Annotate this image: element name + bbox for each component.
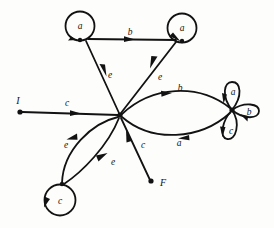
- petal-label-bottom: c: [229, 126, 234, 136]
- loop-petal-right: [232, 104, 259, 117]
- label-initial: I: [15, 95, 20, 106]
- node-top-right[interactable]: [180, 39, 184, 43]
- edge-path-topright: [121, 42, 176, 113]
- node-final[interactable]: [148, 178, 153, 183]
- label-final: F: [159, 177, 167, 188]
- arrowhead-top-b: [124, 36, 135, 42]
- node-hub[interactable]: [117, 112, 122, 117]
- arrowhead-loop-bottomleft: [44, 197, 50, 208]
- edge-label-initial: c: [65, 98, 70, 108]
- edge-label-right-b: b: [178, 83, 183, 93]
- edge-hub-to-righthub: [122, 91, 230, 114]
- edge-path-bl-out: [62, 117, 118, 183]
- arrowhead-loop-topleft: [68, 37, 77, 41]
- edge-label-topright: e: [158, 72, 162, 82]
- edge-label-topleft: e: [108, 70, 112, 80]
- node-bottom-left[interactable]: [60, 182, 64, 186]
- edge-hub-to-topright: [121, 42, 176, 113]
- petal-label-right: b: [247, 107, 252, 117]
- state-transition-diagram: I F a a c a b c c e e b b a e e c: [0, 0, 274, 228]
- edge-path-right-b: [122, 91, 230, 114]
- arrowhead-final: [126, 130, 132, 143]
- edge-righthub-to-hub: [122, 113, 230, 140]
- arrowhead-initial: [70, 110, 81, 116]
- edge-label-top-b: b: [128, 27, 133, 37]
- edge-label-right-a: a: [177, 138, 182, 148]
- edge-topleft-to-hub: [86, 41, 119, 113]
- edge-label-final: c: [141, 140, 146, 150]
- arrowhead-petal-bottom: [220, 127, 226, 138]
- state-label-top-left: a: [78, 21, 83, 31]
- state-label-top-right: a: [180, 23, 185, 33]
- figure-canvas: I F a a c a b c c e e b b a e e c: [0, 0, 274, 228]
- edge-initial-to-hub: [22, 110, 118, 116]
- edge-hub-to-bottomleft: [62, 117, 118, 183]
- edge-label-bl-out: e: [64, 140, 68, 150]
- arrowhead-bl-out: [67, 134, 78, 140]
- edge-topleft-to-topright: [88, 36, 176, 42]
- state-label-bottom-left: c: [58, 196, 63, 206]
- petal-label-top: a: [231, 87, 236, 97]
- node-right-hub[interactable]: [229, 107, 234, 112]
- edge-label-bl-in: e: [111, 157, 115, 167]
- arrowhead-bl-in: [96, 153, 108, 162]
- node-initial[interactable]: [17, 109, 22, 114]
- edge-path-topleft: [86, 41, 119, 113]
- node-top-left[interactable]: [78, 38, 82, 42]
- edge-path-right-a: [122, 113, 230, 135]
